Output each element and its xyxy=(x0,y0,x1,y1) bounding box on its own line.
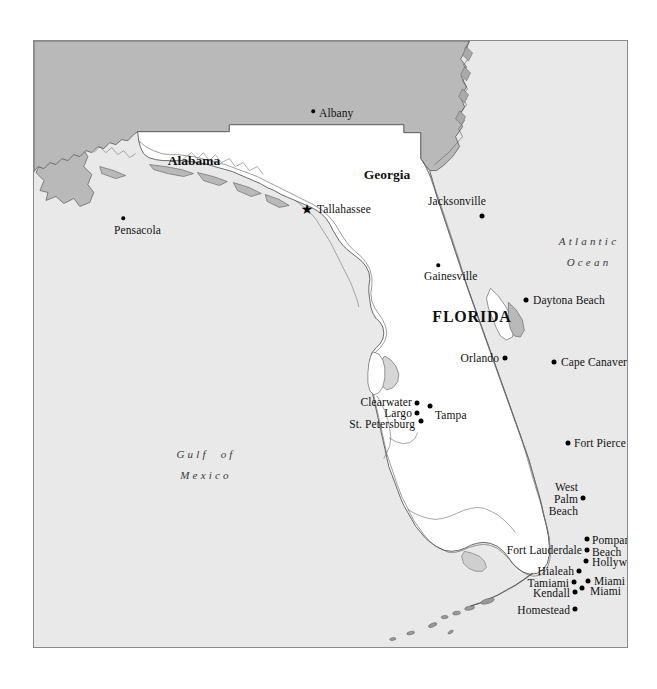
map-frame: AlabamaGeorgiaFLORIDAAtlanticOceanGulf o… xyxy=(33,40,628,648)
florida-map: AlabamaGeorgiaFLORIDAAtlanticOceanGulf o… xyxy=(0,0,657,689)
map-geometry xyxy=(34,41,627,647)
